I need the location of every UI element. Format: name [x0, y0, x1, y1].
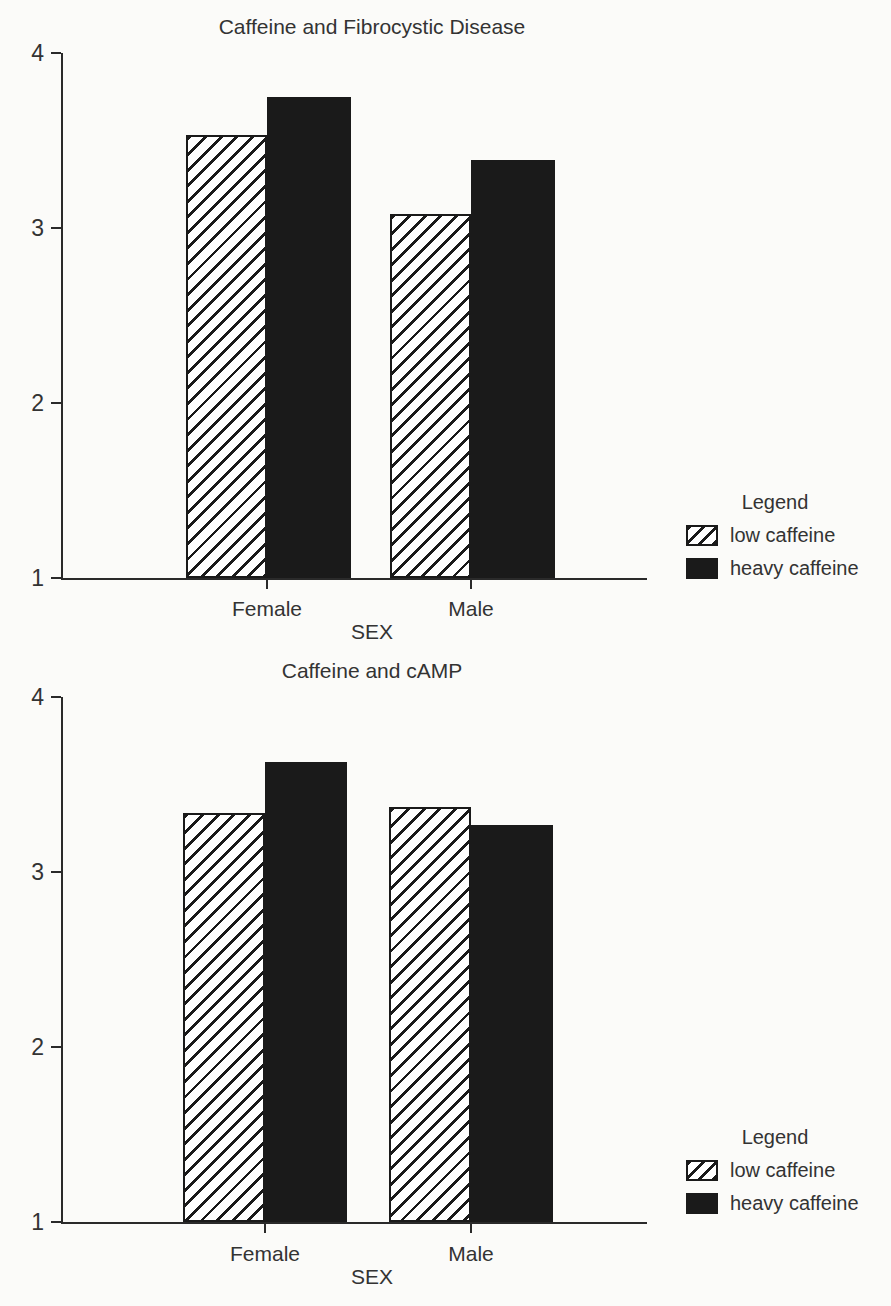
y-axis — [61, 697, 63, 1224]
y-tick-label-4: 4 — [0, 684, 44, 710]
x-tick-female — [264, 1224, 266, 1233]
legend-label-heavy-caffeine: heavy caffeine — [730, 1192, 859, 1214]
legend-swatch-low-caffeine-icon — [686, 1160, 718, 1181]
y-tick-1 — [51, 1221, 61, 1223]
y-tick-2 — [51, 1046, 61, 1048]
legend-swatch-heavy-caffeine-icon — [686, 1193, 718, 1214]
y-tick-label-3: 3 — [0, 859, 44, 885]
legend-item-heavy-caffeine: heavy caffeine — [686, 1192, 864, 1214]
y-tick-3 — [51, 871, 61, 873]
y-tick-4 — [51, 696, 61, 698]
y-tick-label-1: 1 — [0, 1209, 44, 1235]
scanned-figure-page: Caffeine and Fibrocystic Disease1234Fema… — [0, 0, 891, 1306]
x-axis-title: SEX — [351, 1265, 393, 1289]
legend: Legendlow caffeineheavy caffeine — [686, 1125, 864, 1225]
bar-male-heavy-caffeine — [471, 825, 553, 1222]
y-tick-label-2: 2 — [0, 1034, 44, 1060]
legend-item-low-caffeine: low caffeine — [686, 1159, 864, 1181]
x-category-label-male: Male — [448, 1242, 494, 1266]
legend-title: Legend — [686, 1125, 864, 1149]
bar-male-low-caffeine — [389, 807, 471, 1222]
chart-caffeine-camp: Caffeine and cAMP1234FemaleMaleSEXLegend… — [0, 0, 891, 1306]
legend-label-low-caffeine: low caffeine — [730, 1159, 835, 1181]
x-axis — [61, 1222, 647, 1224]
x-tick-male — [470, 1224, 472, 1233]
bar-female-heavy-caffeine — [265, 762, 347, 1222]
chart-title: Caffeine and cAMP — [282, 658, 463, 684]
bar-female-low-caffeine — [183, 813, 265, 1223]
x-category-label-female: Female — [230, 1242, 300, 1266]
